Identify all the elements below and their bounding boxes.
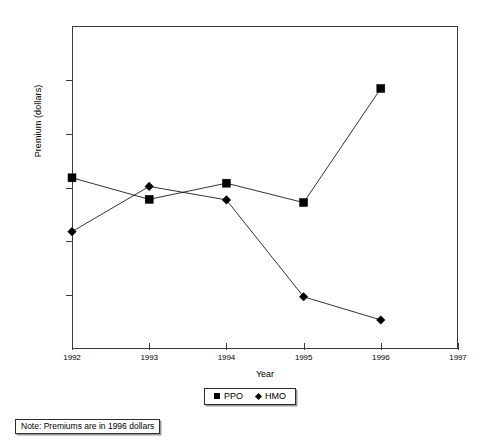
x-tick-mark bbox=[381, 343, 382, 350]
diamond-marker-icon bbox=[255, 392, 262, 399]
x-tick-mark bbox=[226, 343, 227, 350]
x-tick-label: 1996 bbox=[351, 353, 411, 362]
legend-label: HMO bbox=[265, 391, 286, 401]
square-marker-icon bbox=[214, 393, 220, 399]
x-tick-label: 1994 bbox=[196, 353, 256, 362]
chart-figure: Premium (dollars) $8,000$7,500$7,000$6,5… bbox=[0, 0, 483, 440]
x-tick-mark bbox=[304, 343, 305, 350]
note-box: Note: Premiums are in 1996 dollars bbox=[15, 419, 160, 434]
x-tick-label: 1995 bbox=[274, 353, 334, 362]
x-tick-label: 1992 bbox=[42, 353, 102, 362]
x-tick-mark bbox=[458, 343, 459, 350]
x-tick-label: 1993 bbox=[119, 353, 179, 362]
x-tick-mark bbox=[72, 343, 73, 350]
legend-entry-ppo: PPO bbox=[214, 391, 243, 401]
legend-label: PPO bbox=[224, 391, 243, 401]
chart-legend: PPOHMO bbox=[204, 388, 296, 405]
x-tick-label: 1997 bbox=[428, 353, 483, 362]
plot-area bbox=[72, 26, 458, 349]
x-axis-title: Year bbox=[72, 369, 458, 379]
x-tick-mark bbox=[149, 343, 150, 350]
legend-entry-hmo: HMO bbox=[256, 391, 286, 401]
y-axis-title: Premium (dollars) bbox=[33, 51, 43, 191]
